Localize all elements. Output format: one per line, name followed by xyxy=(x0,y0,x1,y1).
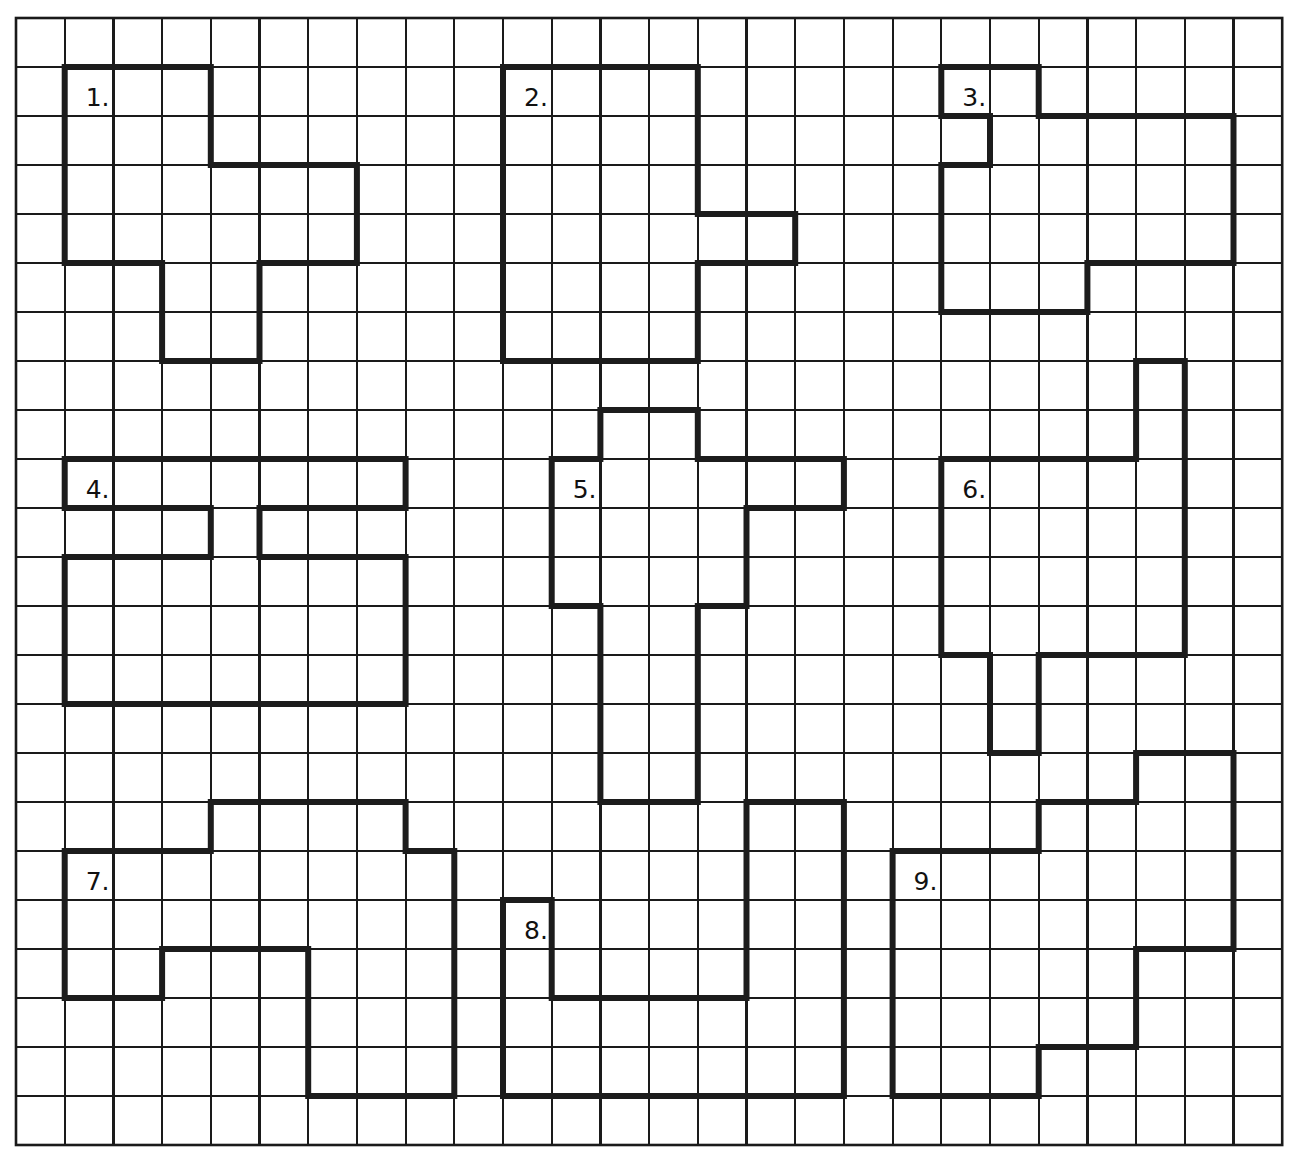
page-background xyxy=(0,0,1293,1163)
shape-number-label: 7. xyxy=(86,867,110,896)
shape-number-label: 2. xyxy=(524,83,548,112)
shape-number-label: 8. xyxy=(524,916,548,945)
shape-number-label: 5. xyxy=(573,475,597,504)
shape-number-label: 1. xyxy=(86,83,110,112)
shape-number-label: 6. xyxy=(962,475,986,504)
grid-worksheet: 1.2.3.4.5.6.7.8.9. xyxy=(0,0,1293,1163)
shape-number-label: 4. xyxy=(86,475,110,504)
shape-number-label: 3. xyxy=(962,83,986,112)
shape-number-label: 9. xyxy=(914,867,938,896)
